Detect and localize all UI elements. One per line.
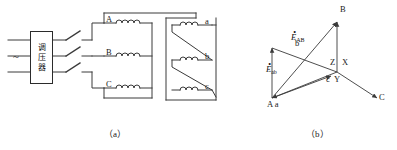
caption-a: （a） xyxy=(104,127,126,140)
primary-label-A: A xyxy=(106,14,112,24)
riser-c xyxy=(92,72,104,88)
coil-primary-a xyxy=(116,20,140,23)
phasor-vertex-Z: Z xyxy=(330,57,335,67)
phasor-vertex-X: X xyxy=(342,57,348,67)
phasor-vertex-Y: Y xyxy=(334,74,340,84)
phasor-vertex-B: B xyxy=(340,4,346,14)
zigzag-tap-c xyxy=(212,90,216,97)
coil-secondary-c xyxy=(180,87,198,90)
coil-secondary-b xyxy=(180,57,198,60)
ac-source-symbol: ~ xyxy=(13,50,19,62)
phasor-b-to-centre xyxy=(272,48,337,72)
phasor-vertex-c: c xyxy=(326,74,330,84)
phasor-label-emf-ab: •Eab xyxy=(266,64,277,74)
secondary-label-b: b xyxy=(205,51,209,61)
phasor-to-C xyxy=(337,72,377,98)
secondary-label-c: c xyxy=(205,81,209,91)
phasor-vertex-Aa: A a xyxy=(267,99,279,109)
coil-secondary-a xyxy=(180,22,198,25)
emf-AB-dot: • xyxy=(293,28,296,37)
primary-label-C: C xyxy=(106,79,112,89)
regulator-char-1: 调 xyxy=(38,43,46,53)
phasor-vertex-C: C xyxy=(379,92,385,102)
coil-primary-b xyxy=(116,53,140,56)
emf-ab-subscript: ab xyxy=(271,69,277,75)
switch-blade-b xyxy=(66,47,80,56)
regulator-char-2: 压 xyxy=(38,53,46,63)
voltage-regulator-box: 调 压 器 xyxy=(30,31,53,84)
regulator-char-3: 器 xyxy=(38,63,46,73)
secondary-label-a: a xyxy=(205,16,209,26)
primary-label-B: B xyxy=(106,47,112,57)
emf-ab-dot: • xyxy=(268,60,271,69)
switch-blade-c xyxy=(66,63,80,72)
riser-a xyxy=(92,23,104,40)
phasor-label-emf-AB: •EAB xyxy=(291,32,305,42)
coil-primary-c xyxy=(116,85,140,88)
switch-blade-a xyxy=(66,31,80,40)
emf-AB-subscript: AB xyxy=(296,37,304,43)
caption-b: （b） xyxy=(306,127,329,140)
figure-root: 调 压 器 ~ A B C a b c b B A a xyxy=(0,0,397,150)
